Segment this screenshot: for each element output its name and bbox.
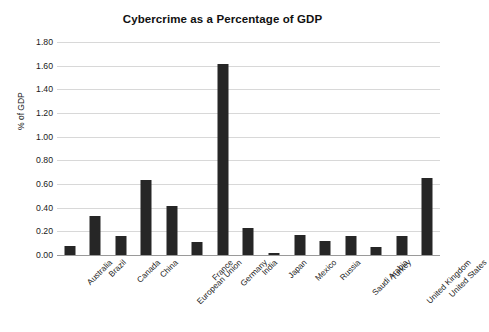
- y-tick-label: 0.40: [21, 203, 53, 213]
- bar[interactable]: [294, 235, 305, 255]
- x-tick-label: Turkey: [389, 258, 413, 282]
- bar-slot: [312, 42, 338, 255]
- bar-slot: [134, 42, 160, 255]
- chart-title: Cybercrime as a Percentage of GDP: [0, 13, 445, 25]
- x-tick-label-text: Mexico: [313, 258, 338, 283]
- x-tick-label: China: [159, 258, 181, 280]
- y-tick-label: 0.20: [21, 226, 53, 236]
- bar-slot: [236, 42, 262, 255]
- bar[interactable]: [269, 253, 280, 255]
- bar-slot: [414, 42, 440, 255]
- bar[interactable]: [141, 180, 152, 255]
- x-axis-tick-labels: AustraliaBrazilCanadaChinaEuropean Union…: [57, 256, 440, 332]
- bar-slot: [363, 42, 389, 255]
- bar-slot: [210, 42, 236, 255]
- y-tick-label: 1.20: [21, 108, 53, 118]
- bar[interactable]: [243, 228, 254, 255]
- bar-slot: [108, 42, 134, 255]
- bar[interactable]: [217, 64, 228, 255]
- bar[interactable]: [64, 246, 75, 255]
- x-tick-label-text: Japan: [287, 258, 309, 280]
- bar[interactable]: [115, 236, 126, 255]
- x-tick-label: Russia: [338, 258, 362, 282]
- bar-slot: [389, 42, 415, 255]
- bar[interactable]: [192, 242, 203, 255]
- y-axis-tick-labels: 0.000.200.400.600.801.001.201.401.601.80: [17, 42, 53, 255]
- bar-slot: [185, 42, 211, 255]
- bar[interactable]: [396, 236, 407, 255]
- x-tick-label: Japan: [287, 258, 309, 280]
- y-tick-label: 1.00: [21, 132, 53, 142]
- bar[interactable]: [166, 206, 177, 255]
- bar-slot: [338, 42, 364, 255]
- y-tick-label: 0.80: [21, 155, 53, 165]
- y-tick-label: 1.80: [21, 37, 53, 47]
- x-tick-label-text: Turkey: [389, 258, 413, 282]
- y-tick-label: 0.60: [21, 179, 53, 189]
- y-tick-label: 1.60: [21, 61, 53, 71]
- bar-slot: [159, 42, 185, 255]
- y-tick-label: 0.00: [21, 250, 53, 260]
- bar[interactable]: [371, 247, 382, 255]
- bar-slot: [57, 42, 83, 255]
- y-tick-label: 1.40: [21, 84, 53, 94]
- bars-layer: [57, 42, 440, 255]
- bar[interactable]: [345, 236, 356, 255]
- bar[interactable]: [90, 216, 101, 255]
- x-tick-label: Mexico: [313, 258, 338, 283]
- bar-slot: [261, 42, 287, 255]
- bar[interactable]: [422, 178, 433, 255]
- bar-slot: [83, 42, 109, 255]
- x-tick-label-text: Canada: [135, 258, 162, 285]
- x-tick-label-text: China: [159, 258, 181, 280]
- bar-slot: [287, 42, 313, 255]
- x-tick-label: Canada: [135, 258, 162, 285]
- x-tick-label-text: Russia: [338, 258, 362, 282]
- bar[interactable]: [320, 241, 331, 255]
